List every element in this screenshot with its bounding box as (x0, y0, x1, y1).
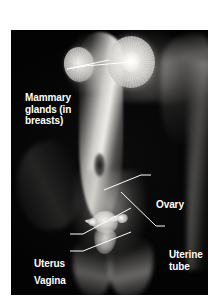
label-uterine-tube: Uterine tube (169, 249, 203, 272)
photograph-plate: Mammary glands (in breasts) Ovary Uterin… (11, 30, 208, 295)
label-mammary-glands: Mammary glands (in breasts) (25, 92, 71, 127)
leader-uterus-arm (83, 208, 131, 234)
leader-uterine-arm (121, 192, 156, 226)
anatomical-figure: Mammary glands (in breasts) Ovary Uterin… (0, 0, 222, 308)
leader-ovary-arm (104, 175, 141, 190)
label-uterus: Uterus (34, 258, 65, 270)
label-vagina: Vagina (34, 275, 66, 287)
label-ovary: Ovary (156, 199, 184, 211)
leader-vagina-arm (83, 232, 131, 251)
